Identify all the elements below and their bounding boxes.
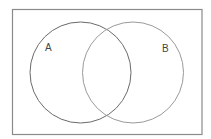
set-b-label: B xyxy=(162,43,169,54)
set-b-circle xyxy=(83,22,184,123)
set-a-circle xyxy=(30,22,131,123)
venn-diagram: A B xyxy=(0,0,211,139)
set-a-label: A xyxy=(45,42,52,53)
